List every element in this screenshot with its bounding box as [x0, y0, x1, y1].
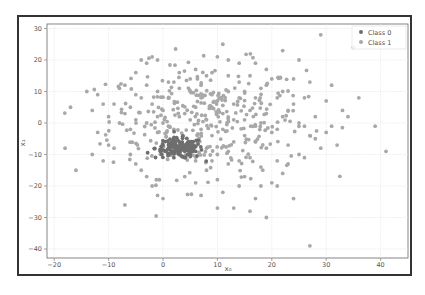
legend-marker-class-1 [359, 40, 363, 44]
x-axis-ticks: −20−10010203040 [47, 258, 384, 269]
y-tick-label: −30 [28, 214, 42, 222]
y-tick-label: −20 [28, 182, 42, 190]
x-tick-label: 40 [376, 261, 384, 269]
x-tick-label: −20 [47, 261, 61, 269]
y-tick-label: 0 [38, 119, 42, 127]
y-tick-label: 30 [34, 25, 42, 33]
scatter-plot: −20−10010203040 −40−30−20−100102030 x₀ x… [0, 0, 425, 295]
legend-marker-class-0 [359, 30, 363, 34]
y-tick-label: −10 [28, 151, 42, 159]
y-axis-ticks: −40−30−20−100102030 [28, 25, 47, 254]
x-tick-label: 30 [322, 261, 330, 269]
x-tick-label: −10 [102, 261, 116, 269]
legend-label-class-0: Class 0 [368, 29, 391, 37]
y-tick-label: 20 [34, 56, 42, 64]
x-tick-label: 10 [213, 261, 221, 269]
x-tick-label: 0 [161, 261, 165, 269]
y-tick-label: −40 [28, 245, 42, 253]
x-axis-label: x₀ [225, 265, 232, 273]
y-tick-label: 10 [34, 88, 42, 96]
x-tick-label: 20 [268, 261, 276, 269]
legend: Class 0 Class 1 [352, 26, 406, 49]
y-axis-label: x₁ [19, 139, 27, 146]
legend-label-class-1: Class 1 [368, 39, 391, 47]
